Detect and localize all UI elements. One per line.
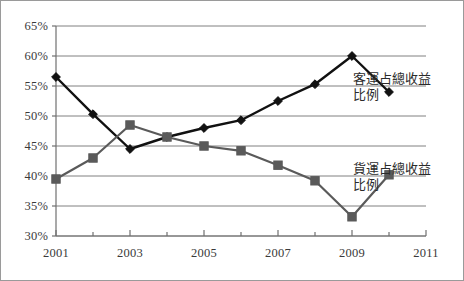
- data-point-marker: [126, 121, 134, 129]
- series-label-freight: 貨運占總收益 比例: [353, 161, 431, 194]
- x-axis-tick-label: 2007: [265, 246, 291, 261]
- y-axis-tick-label: 45%: [3, 139, 48, 154]
- chart-container: 65%60%55%50%45%40%35%30% 200120032005200…: [0, 0, 464, 281]
- y-axis-tick-label: 35%: [3, 199, 48, 214]
- series-label-freight-line1: 貨運占總收益: [353, 161, 431, 176]
- chart-axes: [52, 26, 426, 236]
- y-axis-tick-label: 30%: [3, 229, 48, 244]
- y-axis-tick-label: 65%: [3, 19, 48, 34]
- chart-plot-area: [1, 1, 464, 281]
- data-point-marker: [237, 147, 245, 155]
- data-point-marker: [274, 97, 283, 106]
- series-line-freight: [56, 125, 389, 217]
- data-point-marker: [200, 124, 209, 133]
- data-point-marker: [237, 116, 246, 125]
- x-axis-tick-label: 2005: [191, 246, 217, 261]
- y-axis-tick-label: 60%: [3, 49, 48, 64]
- data-point-marker: [274, 161, 282, 169]
- series-label-passenger-line1: 客運占總收益: [353, 71, 431, 86]
- data-point-marker: [89, 154, 97, 162]
- data-point-marker: [348, 213, 356, 221]
- y-axis-tick-label: 55%: [3, 79, 48, 94]
- x-axis-tick-label: 2009: [339, 246, 365, 261]
- series-label-passenger-line2: 比例: [353, 87, 431, 103]
- x-axis-tick-label: 2001: [43, 246, 69, 261]
- data-point-marker: [311, 177, 319, 185]
- data-point-marker: [52, 175, 60, 183]
- y-axis-tick-label: 50%: [3, 109, 48, 124]
- data-point-marker: [163, 133, 171, 141]
- data-point-marker: [200, 142, 208, 150]
- data-series-group: [52, 52, 394, 221]
- series-label-freight-line2: 比例: [353, 177, 431, 193]
- x-axis-tick-label: 2003: [117, 246, 143, 261]
- series-label-passenger: 客運占總收益 比例: [353, 71, 431, 104]
- y-axis-tick-label: 40%: [3, 169, 48, 184]
- series-line-passenger: [56, 56, 389, 149]
- x-axis-tick-label: 2011: [413, 246, 438, 261]
